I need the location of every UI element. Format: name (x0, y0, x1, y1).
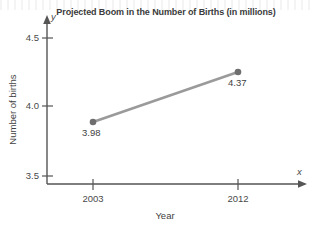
y-axis-title: Number of births (7, 65, 18, 155)
x-axis-arrow (298, 180, 307, 188)
plot-area (0, 0, 314, 230)
y-axis-variable-label: y (51, 11, 56, 22)
data-label-2012: 4.37 (228, 77, 247, 88)
x-tick-label-2003: 2003 (73, 193, 113, 204)
y-axis-arrow (43, 15, 51, 24)
data-label-2003: 3.98 (82, 127, 101, 138)
x-axis-variable-label: x (297, 166, 302, 177)
y-tick-label-4-5: 4.5 (9, 32, 39, 43)
y-tick-label-3-5: 3.5 (9, 170, 39, 181)
chart-figure: Projected Boom in the Number of Births (… (0, 0, 314, 230)
x-axis-title: Year (125, 210, 205, 221)
data-line-segment (93, 72, 238, 122)
data-point-2003 (90, 119, 97, 126)
data-point-2012 (235, 69, 242, 76)
x-tick-label-2012: 2012 (218, 193, 258, 204)
